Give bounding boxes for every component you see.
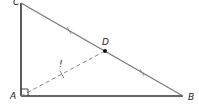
tick-mark-cd: [67, 27, 71, 34]
label-d: D: [102, 37, 109, 47]
triangle-diagram: C D A B !: [0, 0, 199, 104]
segment-cb-hypotenuse: [21, 3, 183, 96]
label-c: C: [13, 0, 20, 7]
point-d: [103, 49, 107, 53]
label-a: A: [9, 91, 16, 101]
label-b: B: [188, 92, 194, 102]
tick-mark-db: [140, 69, 144, 76]
segment-ad-median: [21, 51, 105, 96]
annotation-ad: !: [59, 59, 63, 69]
